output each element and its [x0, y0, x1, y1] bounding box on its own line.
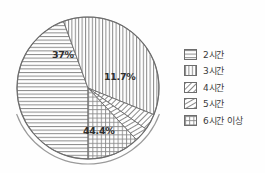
legend-item-label: 2시간: [203, 48, 224, 61]
legend-item[interactable]: 5시간: [184, 96, 264, 113]
legend-swatch-horizontal-lines-icon: [184, 49, 197, 60]
pie-slice-data-label: 37%: [52, 49, 74, 60]
legend-swatch-diagonal-lines-steep-icon: [184, 82, 197, 93]
legend-item-label: 5시간: [203, 97, 224, 110]
legend-item[interactable]: 2시간: [184, 46, 264, 63]
legend-item[interactable]: 4시간: [184, 79, 264, 96]
pie-slice-data-label: 44.4%: [83, 125, 114, 136]
pie-slice-data-label: 11.7%: [104, 71, 135, 82]
pie-slices-group: [17, 17, 159, 159]
chart-legend: 2시간3시간4시간5시간6시간 이상: [184, 46, 264, 129]
legend-item[interactable]: 3시간: [184, 63, 264, 80]
pie-chart-svg: [0, 0, 178, 173]
legend-swatch-cross-hatch-icon: [184, 115, 197, 126]
pie-chart-plot-area: 44.4%37%11.7%: [0, 0, 178, 173]
legend-item-label: 4시간: [203, 81, 224, 94]
pie-chart-figure: 44.4%37%11.7% 2시간3시간4시간5시간6시간 이상: [0, 0, 265, 173]
legend-swatch-vertical-lines-icon: [184, 65, 197, 76]
legend-swatch-diagonal-lines-shallow-icon: [184, 98, 197, 109]
legend-item[interactable]: 6시간 이상: [184, 112, 264, 129]
legend-item-label: 3시간: [203, 64, 224, 77]
legend-item-label: 6시간 이상: [203, 114, 242, 127]
